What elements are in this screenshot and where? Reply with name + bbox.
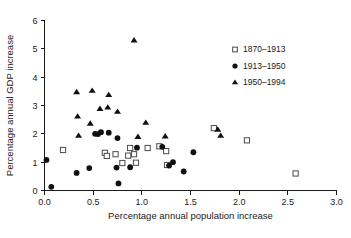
data-point (120, 160, 125, 165)
y-tick-label: 4 (32, 73, 37, 83)
data-point (74, 113, 81, 118)
data-point (60, 147, 65, 152)
series-3 (73, 37, 224, 139)
y-axis-label: Percentage annual GDP increase (4, 35, 15, 176)
data-point (114, 165, 120, 171)
data-point (142, 119, 149, 124)
data-point (181, 169, 187, 175)
data-point (217, 132, 224, 137)
data-point (105, 92, 112, 97)
legend-marker-2 (232, 63, 237, 68)
x-tick-label: 3.0 (330, 197, 343, 207)
data-point (133, 160, 138, 165)
x-tick-label: 1.0 (136, 197, 149, 207)
data-point (244, 138, 249, 143)
data-point (191, 149, 197, 155)
data-point (113, 152, 118, 157)
data-point (131, 37, 138, 42)
data-point (162, 133, 169, 138)
data-point (48, 184, 54, 190)
scatter-plot-figure: 0.00.51.01.52.02.53.0 0123456 1870–19131… (0, 0, 351, 238)
chart-canvas: 0.00.51.01.52.02.53.0 0123456 1870–19131… (0, 0, 351, 238)
y-tick-label: 2 (32, 129, 37, 139)
x-tick-label: 1.5 (184, 197, 197, 207)
data-point (126, 153, 131, 158)
data-point (106, 130, 112, 136)
data-point (134, 134, 141, 139)
y-tick-label: 3 (32, 101, 37, 111)
data-point (127, 164, 133, 170)
data-point (115, 135, 121, 141)
legend-marker-3 (232, 79, 238, 84)
y-tick-label: 1 (32, 158, 37, 168)
axis-lines (45, 21, 337, 191)
data-point (114, 108, 121, 113)
y-tick-label: 6 (32, 16, 37, 26)
data-point (159, 144, 165, 150)
data-point (104, 104, 111, 109)
legend: 1870–19131913–19501950–1994 (232, 44, 286, 87)
y-tick-label: 0 (32, 186, 37, 196)
data-point (87, 120, 94, 125)
x-axis-label: Percentage annual population increase (108, 210, 273, 221)
x-axis-ticks: 0.00.51.01.52.02.53.0 (38, 191, 343, 207)
legend-label-3: 1950–1994 (243, 77, 286, 87)
legend-marker-1 (233, 47, 238, 52)
data-point (104, 153, 109, 158)
data-point (86, 165, 92, 171)
data-point (145, 145, 150, 150)
y-axis-ticks: 0123456 (32, 16, 44, 196)
data-point (44, 157, 50, 163)
x-tick-label: 2.0 (233, 197, 246, 207)
legend-label-2: 1913–1950 (243, 61, 286, 71)
data-point (74, 170, 80, 176)
series-2 (44, 129, 197, 189)
y-tick-label: 5 (32, 44, 37, 54)
plot-axes (45, 21, 337, 191)
legend-label-1: 1870–1913 (243, 44, 286, 54)
data-point (134, 145, 140, 151)
data-point (164, 149, 169, 154)
x-tick-label: 0.0 (38, 197, 51, 207)
data-point (89, 87, 96, 92)
x-tick-label: 2.5 (282, 197, 295, 207)
data-point (98, 129, 104, 135)
data-point (293, 171, 298, 176)
data-point (116, 181, 122, 187)
data-point (73, 89, 80, 94)
data-point (170, 159, 176, 165)
data-point (131, 152, 136, 157)
data-point (75, 132, 82, 137)
data-point (128, 145, 133, 150)
data-point (96, 106, 103, 111)
x-tick-label: 0.5 (87, 197, 100, 207)
